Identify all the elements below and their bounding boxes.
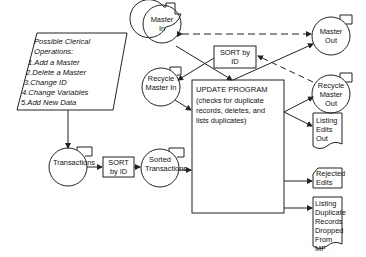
transactions-label: Transactions (53, 158, 83, 167)
listing-edits-label: Listing Edits Out (316, 116, 342, 143)
sort-bottom-label: SORT by ID (104, 158, 133, 176)
recycle-master-in-label: Recycle Master In (145, 74, 177, 92)
sorted-transactions-label: Sorted Transactions (145, 155, 175, 173)
clerical-op-2: 2.Delete a Master (26, 68, 116, 78)
clerical-op-5: 5.Add New Data (21, 98, 111, 108)
master-out-label: Master Out (317, 27, 345, 45)
clerical-ops-title: Possible Clerical Operations: (34, 37, 124, 57)
clerical-op-3: 3.Change ID (24, 78, 114, 88)
sort-top-label: SORT by ID (216, 48, 254, 66)
listing-duplicates-label: Listing Duplicate Records Dropped From M… (315, 199, 343, 253)
rejected-edits-label: Rejected Edits (316, 169, 344, 187)
recycle-master-out-label: Recycle Master Out (314, 81, 348, 108)
clerical-op-4: 4.Change Variables (22, 88, 114, 98)
clerical-op-1: 1.Add a Master (28, 58, 118, 68)
update-program-title: UPDATE PROGRAM (196, 85, 282, 94)
update-program-desc: (checks for duplicate records, deletes, … (196, 96, 276, 126)
master-in-label: Master In (148, 15, 176, 33)
